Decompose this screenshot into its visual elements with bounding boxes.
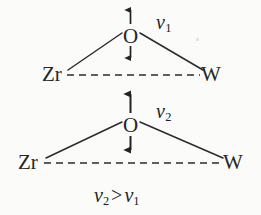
atom-label-zr-top: Zr — [42, 64, 62, 85]
bond-zr-o-bottom — [46, 122, 122, 158]
atom-label-w-top: W — [201, 64, 221, 85]
relation-operator: > — [109, 184, 124, 206]
atom-label-o-bottom: O — [123, 115, 138, 136]
atom-label-zr-bottom: Zr — [18, 152, 38, 173]
relation-caption: ν2>ν1 — [94, 185, 139, 205]
mode-label-nu2: ν2 — [156, 101, 171, 121]
relation-left-subscript: 2 — [103, 194, 109, 208]
atom-label-w-bottom: W — [223, 152, 243, 173]
mode-label-nu1-subscript: 1 — [165, 21, 171, 35]
vibration-mode-figure: O Zr W ν1 O Zr W ν2 ν2>ν1 — [0, 0, 261, 215]
bond-zr-o-top — [68, 33, 122, 70]
mode-label-nu1: ν1 — [156, 12, 171, 32]
atom-label-o-top: O — [123, 26, 138, 47]
relation-left-symbol: ν — [94, 184, 103, 206]
mode-label-nu2-symbol: ν — [156, 100, 165, 122]
bond-o-w-top — [140, 33, 203, 70]
mode-label-nu1-symbol: ν — [156, 11, 165, 33]
bond-o-w-bottom — [140, 122, 223, 158]
relation-right-symbol: ν — [124, 184, 133, 206]
scan-artifact-speck — [196, 38, 199, 41]
mode-label-nu2-subscript: 2 — [165, 110, 171, 124]
relation-right-subscript: 1 — [133, 194, 139, 208]
